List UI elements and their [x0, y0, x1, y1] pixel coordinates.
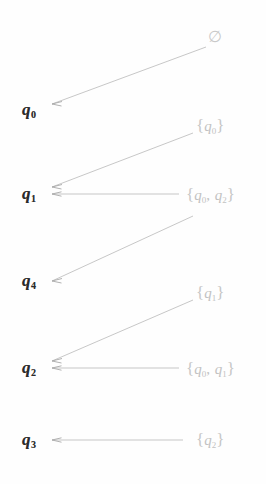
state-label-q1: q1	[22, 185, 36, 202]
set-label-empty-set: ∅	[208, 29, 222, 45]
set-label-q1: {q1}	[196, 284, 224, 301]
arrow-set-q0q1-to-q2	[52, 366, 179, 370]
state-label-q3: q3	[22, 431, 36, 448]
set-label-q0: {q0}	[196, 117, 224, 134]
arrow-set-q0-to-q1	[52, 133, 193, 189]
set-label-q2: {q2}	[196, 431, 224, 448]
arrow-set-q1-to-q2	[52, 300, 193, 363]
state-label-q0: q0	[22, 101, 36, 118]
state-label-q2: q2	[22, 359, 36, 376]
arrow-set-q0q2-to-q4	[52, 216, 193, 283]
set-label-q0-q2: {q0, q2}	[186, 186, 235, 203]
subset-construction-diagram: q0 q1 q4 q2 q3 ∅ {q0} {q0, q2} {q1} {q0,…	[0, 0, 266, 484]
set-label-q0-q1: {q0, q1}	[186, 360, 235, 377]
state-label-q4: q4	[22, 272, 36, 289]
arrow-set-q0q2-to-q1	[52, 192, 179, 196]
arrow-layer	[0, 0, 266, 484]
arrow-set-q2-to-q3	[52, 438, 183, 442]
arrow-emptyset-to-q0	[52, 47, 206, 106]
